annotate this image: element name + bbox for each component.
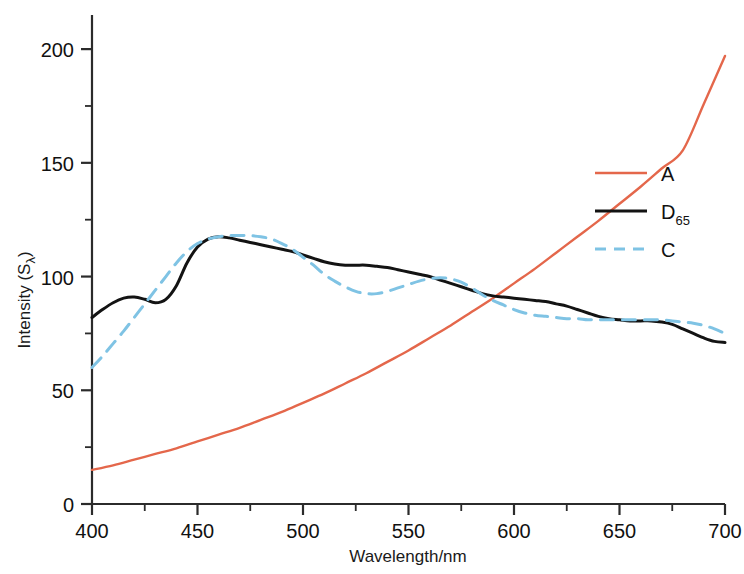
- x-axis-title: Wavelength/nm: [349, 547, 466, 566]
- x-tick-label: 450: [181, 520, 214, 542]
- y-axis-title-main: Intensity (S: [15, 264, 34, 349]
- x-tick-label: 550: [392, 520, 425, 542]
- y-tick-label: 50: [52, 380, 74, 402]
- legend-label-main: D: [661, 201, 675, 223]
- legend-label-sub: 65: [675, 213, 689, 228]
- x-tick-label: 500: [286, 520, 319, 542]
- y-tick-label: 150: [41, 153, 74, 175]
- y-axis-title-tail: ): [15, 251, 34, 257]
- legend-label-main: A: [661, 163, 675, 185]
- spectral-power-distribution-chart: 050100150200 400450500550600650700 Inten…: [0, 0, 744, 574]
- legend-label-A: A: [661, 163, 675, 185]
- x-tick-label: 600: [497, 520, 530, 542]
- legend-label-C: C: [661, 239, 675, 261]
- x-tick-label: 700: [708, 520, 741, 542]
- x-tick-label: 400: [75, 520, 108, 542]
- y-tick-label: 0: [63, 494, 74, 516]
- x-tick-label: 650: [603, 520, 636, 542]
- y-tick-label: 200: [41, 39, 74, 61]
- legend-label-main: C: [661, 239, 675, 261]
- chart-background: [0, 0, 744, 574]
- y-tick-label: 100: [41, 267, 74, 289]
